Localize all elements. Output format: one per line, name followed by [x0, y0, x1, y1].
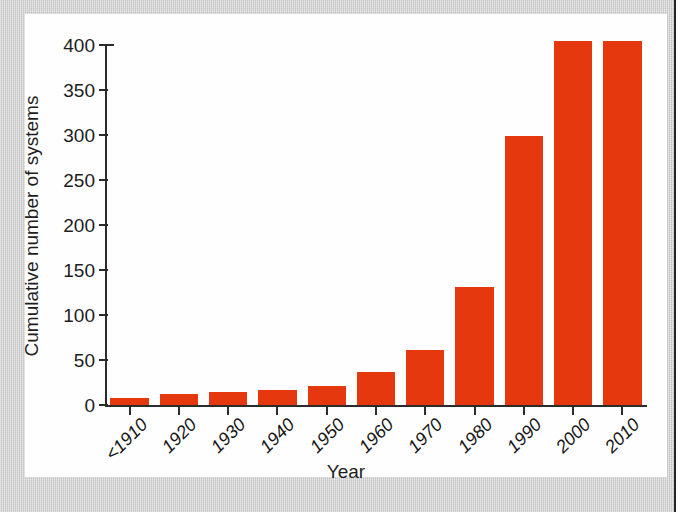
x-tick-mark — [326, 407, 328, 415]
x-tick-label: 2010 — [602, 415, 643, 456]
y-axis-line — [105, 45, 107, 407]
plot-area: 050100150200250300350400 <19101920193019… — [105, 14, 647, 407]
bar — [603, 41, 641, 405]
y-tick-mark — [99, 134, 108, 136]
y-tick-mark — [99, 269, 108, 271]
y-tick-label: 250 — [63, 171, 95, 190]
x-tick-label: 1980 — [454, 415, 495, 456]
x-tick-label: 1990 — [503, 415, 544, 456]
x-tick-mark — [227, 407, 229, 415]
bar — [308, 386, 346, 405]
bar — [455, 287, 493, 405]
y-tick-mark — [99, 89, 108, 91]
y-tick-label: 50 — [74, 351, 95, 370]
x-tick-mark — [424, 407, 426, 415]
right-border-rule — [674, 0, 676, 512]
y-tick-label: 0 — [84, 396, 95, 415]
x-tick-mark — [621, 407, 623, 415]
y-tick-label: 400 — [63, 36, 95, 55]
y-tick-label: 150 — [63, 261, 95, 280]
y-tick-label: 200 — [63, 216, 95, 235]
bar — [554, 41, 592, 405]
x-tick-label: 1970 — [405, 415, 446, 456]
bar — [406, 350, 444, 405]
y-tick-mark — [99, 179, 108, 181]
figure-root: Cumulative number of systems 05010015020… — [0, 0, 683, 512]
x-tick-mark — [523, 407, 525, 415]
x-tick-mark — [276, 407, 278, 415]
x-axis-title: Year — [25, 462, 667, 481]
chart-panel: Cumulative number of systems 05010015020… — [25, 14, 667, 477]
x-tick-mark — [129, 407, 131, 415]
y-tick-label: 300 — [63, 126, 95, 145]
x-tick-label: <1910 — [102, 415, 150, 463]
y-tick-label: 350 — [63, 81, 95, 100]
x-tick-label: 1940 — [257, 415, 298, 456]
x-tick-mark — [375, 407, 377, 415]
bar — [505, 136, 543, 405]
x-tick-label: 1920 — [159, 415, 200, 456]
x-tick-mark — [572, 407, 574, 415]
right-margin-pad — [676, 0, 683, 512]
y-axis-title: Cumulative number of systems — [22, 96, 41, 357]
y-tick-mark — [99, 224, 108, 226]
bar — [110, 398, 148, 405]
x-tick-label: 1930 — [208, 415, 249, 456]
x-tick-mark — [474, 407, 476, 415]
bar — [160, 394, 198, 405]
y-tick-mark — [99, 314, 108, 316]
x-tick-mark — [178, 407, 180, 415]
bar — [357, 372, 395, 405]
y-tick-mark — [99, 359, 108, 361]
y-tick-mark — [99, 44, 114, 46]
bar — [258, 390, 296, 405]
x-tick-label: 1960 — [356, 415, 397, 456]
x-tick-label: 2000 — [553, 415, 594, 456]
x-tick-label: 1950 — [306, 415, 347, 456]
y-tick-label: 100 — [63, 306, 95, 325]
bar — [209, 392, 247, 406]
y-tick-mark — [99, 404, 108, 406]
